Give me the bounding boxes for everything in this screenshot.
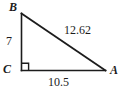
vertex-label-a: A [110, 64, 118, 76]
geometry-figure: B C A 7 10.5 12.62 [0, 0, 123, 98]
side-length-label-ca: 10.5 [48, 76, 69, 88]
vertex-label-c: C [3, 63, 11, 75]
vertex-label-b: B [9, 1, 17, 13]
right-angle-marker [22, 63, 29, 70]
side-length-label-bc: 7 [6, 35, 12, 47]
side-length-label-ba: 12.62 [64, 24, 91, 36]
